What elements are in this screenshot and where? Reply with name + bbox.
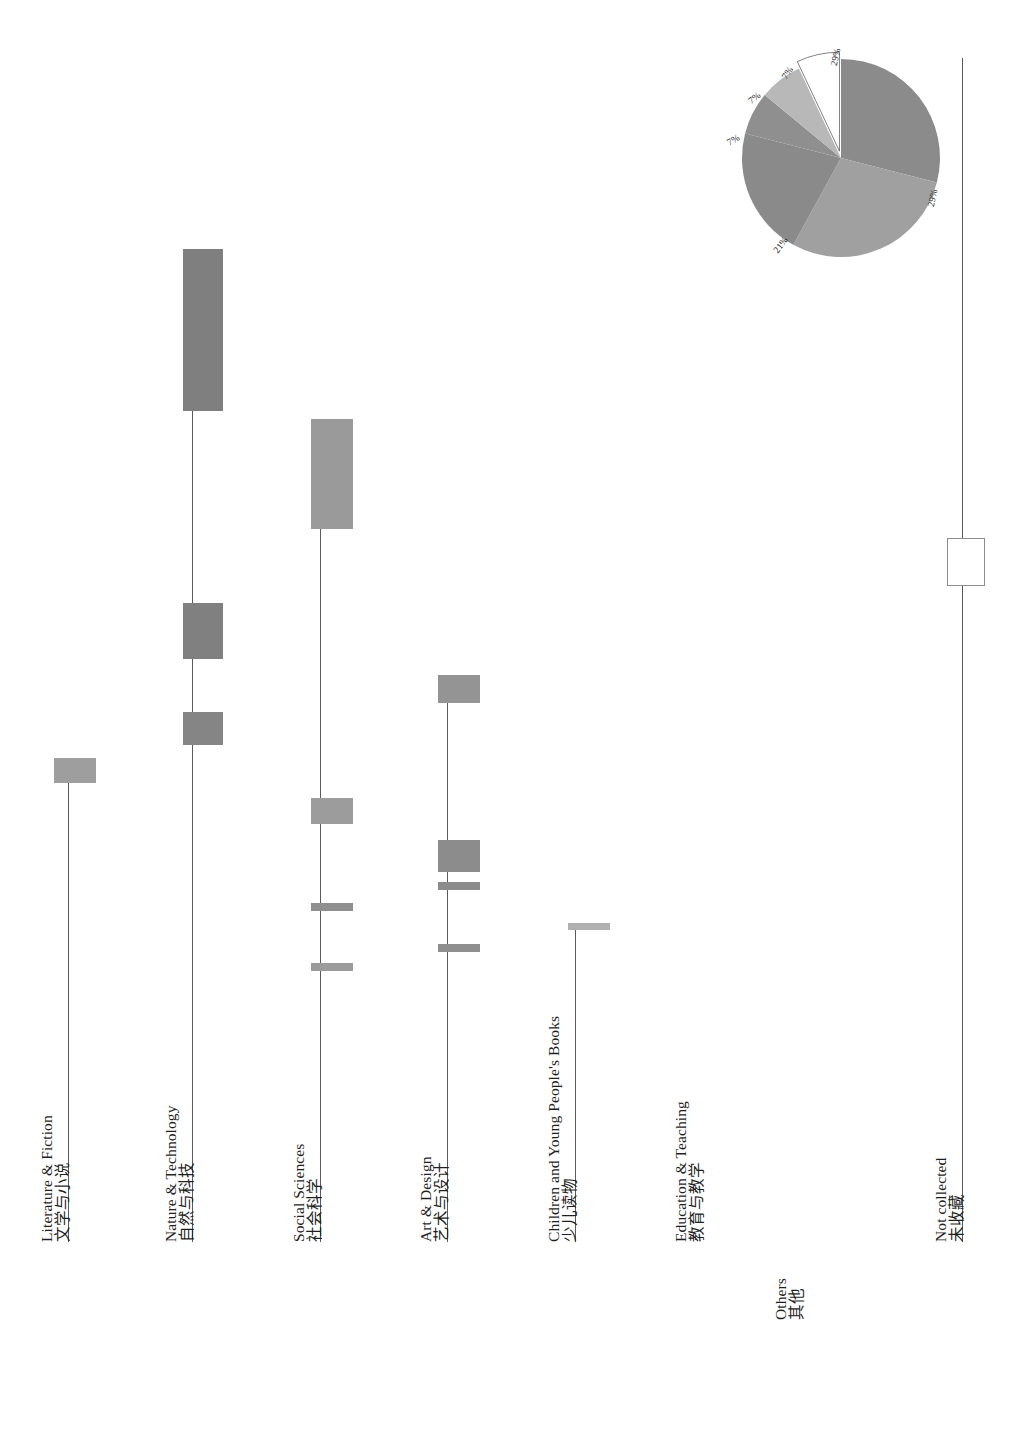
category-label-en-nature-technology: Nature & Technology xyxy=(162,1105,179,1242)
category-label-others: Others其他 xyxy=(772,1278,807,1320)
category-label-zh-children-young-people: 少儿读物 xyxy=(562,1016,579,1242)
category-label-social-sciences: Social Sciences社会科学 xyxy=(290,1144,325,1242)
bar-nat-3 xyxy=(183,712,223,745)
bar-nat-1 xyxy=(183,249,223,411)
category-label-literature-fiction: Literature & Fiction文学与小说 xyxy=(38,1115,73,1242)
category-label-en-others: Others xyxy=(772,1278,789,1320)
category-label-en-education-teaching: Education & Teaching xyxy=(672,1101,689,1242)
bar-art-1 xyxy=(438,675,480,703)
bar-lit-1 xyxy=(54,758,96,783)
category-label-zh-not-collected: 未收藏 xyxy=(949,1158,966,1242)
category-label-art-design: Art & Design艺术与设计 xyxy=(417,1156,452,1242)
category-label-not-collected: Not collected未收藏 xyxy=(932,1158,967,1242)
category-label-education-teaching: Education & Teaching教育与教学 xyxy=(672,1101,707,1242)
pie-chart xyxy=(730,47,952,269)
category-label-nature-technology: Nature & Technology自然与科技 xyxy=(162,1105,197,1242)
figure-page: Literature & Fiction文学与小说Nature & Techno… xyxy=(0,0,1012,1440)
bar-nat-2 xyxy=(183,603,223,659)
bar-art-3 xyxy=(438,882,480,890)
axis-line-not-collected xyxy=(962,58,963,1242)
category-label-zh-education-teaching: 教育与教学 xyxy=(689,1101,706,1242)
bar-child-1 xyxy=(568,923,610,930)
category-label-zh-social-sciences: 社会科学 xyxy=(307,1144,324,1242)
category-label-en-children-young-people: Children and Young People's Books xyxy=(545,1016,562,1242)
bar-art-2 xyxy=(438,840,480,872)
bar-soc-2 xyxy=(311,798,353,824)
category-label-en-social-sciences: Social Sciences xyxy=(290,1144,307,1242)
bar-notcollected-1 xyxy=(947,538,985,586)
category-label-zh-others: 其他 xyxy=(789,1278,806,1320)
category-label-en-literature-fiction: Literature & Fiction xyxy=(38,1115,55,1242)
category-label-zh-nature-technology: 自然与科技 xyxy=(179,1105,196,1242)
bar-soc-1 xyxy=(311,419,353,529)
bar-art-4 xyxy=(438,944,480,952)
category-label-children-young-people: Children and Young People's Books少儿读物 xyxy=(545,1016,580,1242)
axis-line-social-sciences xyxy=(320,420,321,1242)
category-label-en-not-collected: Not collected xyxy=(932,1158,949,1242)
bar-soc-3 xyxy=(311,903,353,911)
category-label-en-art-design: Art & Design xyxy=(417,1156,434,1242)
pie-svg xyxy=(730,47,952,269)
category-label-zh-literature-fiction: 文学与小说 xyxy=(55,1115,72,1242)
category-label-zh-art-design: 艺术与设计 xyxy=(434,1156,451,1242)
bar-soc-4 xyxy=(311,963,353,971)
